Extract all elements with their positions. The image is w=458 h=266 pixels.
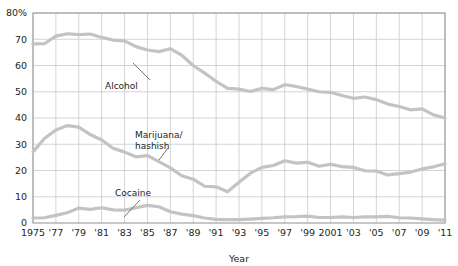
y-tick-label: 20 [15,165,27,176]
y-tick-label: 10 [15,191,27,202]
y-tick-label: 60 [15,60,27,71]
x-tick-label: '77 [49,227,64,238]
x-tick-label: '87 [163,227,178,238]
x-tick-label: '93 [232,227,247,238]
annotation-label: Marijuana/ [135,130,183,140]
y-tick-label: 80% [6,7,27,18]
x-tick-label: '03 [346,227,361,238]
annotation-label: Cocaine [115,188,151,198]
x-tick-label: '81 [94,227,109,238]
annotation-label: Alcohol [105,81,138,91]
x-axis-title: Year [228,253,249,264]
x-tick-label: '95 [255,227,270,238]
y-tick-label: 40 [15,112,27,123]
y-tick-label: 30 [15,139,27,150]
x-tick-label: '99 [300,227,315,238]
x-tick-label: '83 [117,227,132,238]
y-tick-label: 70 [15,34,27,45]
chart-figure: 01020304050607080% 1975'77'79'81'83'85'8… [0,0,458,266]
x-axis-tick-labels: 1975'77'79'81'83'85'87'89'91'93'95'97'99… [21,227,452,238]
drug-use-line-chart: 01020304050607080% 1975'77'79'81'83'85'8… [0,0,458,266]
x-tick-label: '79 [71,227,86,238]
x-tick-label: '89 [186,227,201,238]
x-tick-label: '07 [392,227,407,238]
x-tick-label: '85 [140,227,155,238]
x-tick-label: '91 [209,227,224,238]
x-tick-label: 1975 [21,227,45,238]
x-tick-label: 2001 [318,227,342,238]
x-tick-label: '05 [369,227,384,238]
x-tick-label: '97 [277,227,292,238]
annotation-label: hashish [135,141,170,151]
y-tick-label: 50 [15,86,27,97]
y-axis-tick-labels: 01020304050607080% [6,7,27,228]
x-tick-label: '09 [415,227,430,238]
x-tick-label: '11 [438,227,453,238]
